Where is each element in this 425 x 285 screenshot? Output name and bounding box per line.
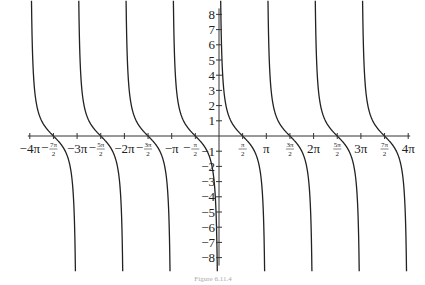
x-tick-numerator: 3π	[286, 141, 294, 149]
x-tick-fraction-label: 7π2	[381, 141, 389, 158]
y-tick-label: −8	[201, 250, 215, 265]
x-tick-numerator: 7π	[381, 141, 389, 149]
x-tick-denominator: 2	[52, 150, 56, 158]
x-tick-fraction-label: −π2	[183, 140, 199, 158]
y-tick-label: −2	[201, 159, 215, 174]
y-tick-label: 3	[209, 83, 216, 98]
y-tick-label: −7	[201, 235, 215, 250]
x-tick-label: 2π	[307, 141, 321, 156]
x-tick-numerator: 5π	[334, 141, 342, 149]
x-tick-fraction-label: 3π2	[286, 141, 294, 158]
x-tick-fraction-label: −5π2	[88, 140, 104, 158]
x-tick-sign: −	[88, 140, 95, 155]
y-tick-label: 5	[209, 53, 216, 68]
x-tick-label: 4π	[402, 141, 416, 156]
x-tick-numerator: π	[194, 141, 198, 149]
y-tick-label: 1	[209, 113, 216, 128]
y-tick-label: 8	[209, 7, 216, 22]
x-tick-numerator: 7π	[50, 141, 58, 149]
x-tick-label: −3π	[67, 141, 88, 156]
y-tick-label: −4	[201, 189, 215, 204]
x-tick-denominator: 2	[288, 150, 292, 158]
x-ticks-group: −4π−7π2−3π−5π2−2π−3π2−π−π2π2π3π22π5π23π7…	[20, 133, 416, 158]
x-tick-fraction-label: −7π2	[41, 140, 57, 158]
y-tick-label: 2	[209, 98, 216, 113]
x-tick-fraction-label: π2	[239, 141, 247, 158]
y-tick-label: 4	[209, 68, 216, 83]
x-tick-denominator: 2	[99, 150, 103, 158]
y-tick-label: −6	[201, 220, 215, 235]
x-tick-label: −4π	[20, 141, 41, 156]
y-tick-label: 7	[209, 22, 216, 37]
x-tick-denominator: 2	[383, 150, 387, 158]
x-tick-numerator: π	[241, 141, 245, 149]
cot-chart: −4π−7π2−3π−5π2−2π−3π2−π−π2π2π3π22π5π23π7…	[0, 0, 425, 285]
x-tick-label: π	[263, 141, 270, 156]
x-tick-numerator: 5π	[97, 141, 105, 149]
x-tick-label: −π	[165, 141, 179, 156]
x-tick-label: 3π	[354, 141, 368, 156]
x-tick-denominator: 2	[194, 150, 198, 158]
x-tick-fraction-label: −3π2	[136, 140, 152, 158]
x-tick-denominator: 2	[146, 150, 150, 158]
x-tick-sign: −	[183, 140, 190, 155]
y-tick-label: 6	[209, 37, 216, 52]
x-tick-sign: −	[41, 140, 48, 155]
figure-caption: Figure 6.11.4	[194, 275, 232, 283]
x-tick-denominator: 2	[336, 150, 340, 158]
y-tick-label: −5	[201, 205, 215, 220]
x-tick-sign: −	[136, 140, 143, 155]
x-tick-label: −2π	[114, 141, 135, 156]
x-tick-fraction-label: 5π2	[333, 141, 341, 158]
x-tick-denominator: 2	[241, 150, 245, 158]
x-tick-numerator: 3π	[145, 141, 153, 149]
y-tick-label: −3	[201, 174, 215, 189]
y-tick-label: −1	[201, 144, 215, 159]
